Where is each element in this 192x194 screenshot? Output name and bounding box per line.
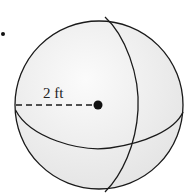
radius-label: 2 ft [43,85,64,101]
sphere-diagram: 2 ft [0,0,192,194]
center-point [94,101,103,110]
bullet-dot [1,32,5,36]
